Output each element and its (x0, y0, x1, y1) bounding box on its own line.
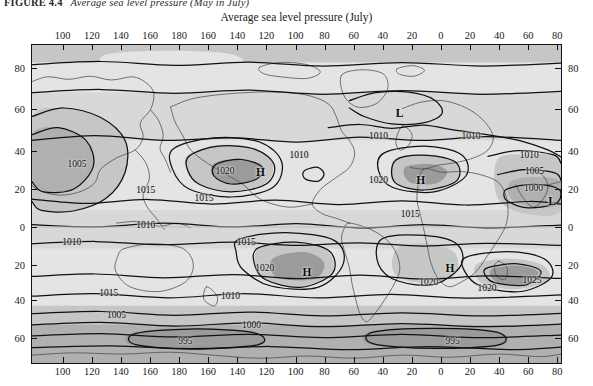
isobar-value-label: 995 (178, 336, 192, 346)
isobar-value-label: 1010 (221, 291, 240, 301)
isobar-value-label: 1010 (136, 220, 155, 230)
isobar-value-label: 1015 (136, 185, 155, 195)
isobar-value-label: 1005 (68, 159, 87, 169)
x-tickmark (179, 44, 180, 50)
high-pressure-marker: H (445, 262, 454, 274)
isobar-value-label: 1000 (524, 183, 543, 193)
x-tick-bottom: 20 (465, 365, 476, 378)
y-axis-right: 806040200204060 (563, 0, 593, 386)
high-pressure-marker: H (303, 266, 312, 278)
x-tick-bottom: 40 (494, 365, 505, 378)
x-tick-bottom: 0 (438, 365, 443, 378)
x-tickmark (383, 357, 384, 363)
x-tick-bottom: 60 (348, 365, 359, 378)
y-tick-right: 40 (568, 145, 579, 156)
x-tick-bottom: 140 (113, 365, 129, 378)
y-tickmark (31, 227, 37, 228)
x-tickmark (412, 357, 413, 363)
isobar-value-label: 1020 (419, 277, 438, 287)
x-tickmark (237, 44, 238, 50)
y-tickmark (555, 68, 561, 69)
x-tick-top: 80 (552, 29, 563, 42)
x-tick-top: 180 (171, 29, 187, 42)
x-tickmark (296, 44, 297, 50)
x-tickmark (325, 44, 326, 50)
isobar-value-label: 1010 (62, 237, 81, 247)
x-tickmark (470, 357, 471, 363)
y-tick-left: 60 (15, 104, 26, 115)
low-pressure-marker: L (396, 107, 404, 119)
x-tickmark (441, 357, 442, 363)
isobar-value-label: 995 (445, 336, 459, 346)
x-tickmark (296, 357, 297, 363)
y-tickmark (555, 227, 561, 228)
x-tick-bottom: 100 (55, 365, 71, 378)
isobar-value-label: 1025 (522, 275, 541, 285)
x-tickmark (412, 44, 413, 50)
x-tickmark (150, 357, 151, 363)
x-tickmark (63, 44, 64, 50)
isobar-value-label: 1010 (520, 150, 539, 160)
y-tickmark (31, 189, 37, 190)
y-tick-right: 60 (568, 104, 579, 115)
x-tick-bottom: 40 (378, 365, 389, 378)
high-pressure-marker: H (256, 166, 265, 178)
isobar-value-label: 1015 (99, 288, 118, 298)
y-tickmark (555, 109, 561, 110)
y-tickmark (555, 151, 561, 152)
y-tick-right: 60 (568, 333, 579, 344)
isobar-value-label: 1015 (237, 237, 256, 247)
x-tickmark (325, 357, 326, 363)
x-tickmark (208, 44, 209, 50)
x-tickmark (121, 44, 122, 50)
y-tick-right: 20 (568, 260, 579, 271)
figure-caption: FIGURE 4.4Average sea level pressure (Ma… (4, 0, 564, 11)
x-tick-bottom: 120 (84, 365, 100, 378)
x-tick-top: 140 (229, 29, 245, 42)
y-tick-right: 0 (568, 221, 573, 232)
figure-caption-text: Average sea level pressure (May in July) (71, 0, 250, 8)
pressure-map-plot: 1005101510101020H101010151010L1020H10151… (31, 44, 562, 364)
x-axis-bottom: 1001201401601801601401201008060402002040… (0, 365, 593, 379)
y-tick-left: 20 (15, 260, 26, 271)
x-tick-bottom: 160 (200, 365, 216, 378)
figure-root: FIGURE 4.4Average sea level pressure (Ma… (0, 0, 593, 386)
x-tick-top: 0 (438, 29, 443, 42)
x-tickmark (92, 357, 93, 363)
x-tick-bottom: 120 (259, 365, 275, 378)
y-tickmark (31, 68, 37, 69)
y-tick-left: 40 (15, 294, 26, 305)
y-tick-left: 20 (15, 183, 26, 194)
x-tick-top: 40 (494, 29, 505, 42)
x-tickmark (557, 44, 558, 50)
x-tickmark (63, 357, 64, 363)
x-tickmark (557, 357, 558, 363)
y-tick-left: 80 (15, 62, 26, 73)
isobar-value-label: 1015 (194, 193, 213, 203)
x-tickmark (121, 357, 122, 363)
y-tick-left: 60 (15, 333, 26, 344)
y-tickmark (555, 338, 561, 339)
x-tick-top: 140 (113, 29, 129, 42)
y-tick-left: 0 (20, 221, 25, 232)
x-tick-bottom: 80 (319, 365, 330, 378)
isobar-value-label: 1015 (401, 209, 420, 219)
y-tick-right: 80 (568, 62, 579, 73)
y-tickmark (555, 300, 561, 301)
x-tick-top: 60 (523, 29, 534, 42)
y-tick-left: 40 (15, 145, 26, 156)
y-tick-right: 20 (568, 183, 579, 194)
y-tickmark (555, 189, 561, 190)
x-tick-bottom: 20 (407, 365, 418, 378)
x-tick-top: 40 (378, 29, 389, 42)
x-tick-top: 80 (319, 29, 330, 42)
x-tick-top: 120 (84, 29, 100, 42)
x-tickmark (441, 44, 442, 50)
isobar-value-label: 1010 (290, 150, 309, 160)
x-tickmark (266, 44, 267, 50)
isobar-value-label: 1020 (255, 263, 274, 273)
x-tickmark (499, 44, 500, 50)
isobar-value-label: 1020 (477, 283, 496, 293)
x-tickmark (528, 357, 529, 363)
x-tickmark (179, 357, 180, 363)
